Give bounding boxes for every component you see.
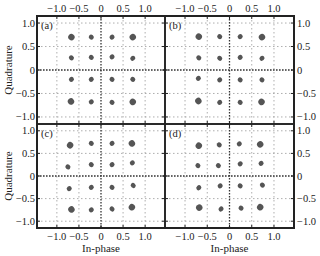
constellation-point (130, 182, 137, 189)
constellation-point (218, 205, 225, 212)
x-tick-label-bottom: −1.0 (47, 231, 66, 242)
constellation-point (88, 161, 95, 168)
constellation-point (237, 182, 244, 189)
constellation-point (129, 159, 136, 166)
y-tick-label-right: −1.0 (297, 216, 316, 227)
panel-a: (a) (37, 16, 165, 124)
constellation-point (88, 34, 95, 41)
panel-label: (c) (41, 128, 53, 140)
constellation-point (216, 33, 223, 40)
constellation-point (88, 206, 95, 213)
constellation-point (238, 205, 245, 212)
y-tick-label-left: 0.5 (22, 148, 35, 159)
constellation-point (109, 140, 116, 147)
y-tick-label-left: 1.0 (22, 125, 35, 136)
panel-label: (d) (169, 128, 182, 140)
constellation-point (109, 184, 116, 191)
x-tick-label-bottom: 0 (227, 231, 232, 242)
y-tick-label-right: 1.0 (297, 125, 310, 136)
constellation-point (195, 203, 204, 212)
constellation-point (128, 97, 137, 106)
y-tick-label-right: −1.0 (297, 111, 316, 122)
constellation-point (194, 32, 203, 41)
y-tick-label-left: −0.5 (16, 88, 35, 99)
constellation-point (237, 33, 244, 40)
constellation-point (217, 182, 224, 189)
x-tick-label-top: −0.5 (198, 3, 217, 14)
x-tick-label-top: 1.0 (139, 3, 152, 14)
y-tick-label-left: 0 (30, 171, 35, 182)
y-tick-label-right: 0.5 (297, 41, 310, 52)
y-tick-label-left: −1.0 (16, 111, 35, 122)
constellation-point (215, 162, 222, 169)
constellation-point (68, 76, 75, 83)
x-tick-label-top: −0.5 (69, 3, 88, 14)
x-tick-label-bottom: 0.5 (245, 231, 258, 242)
y-tick-label-left: −1.0 (16, 216, 35, 227)
y-axis-label-top: Quadrature (2, 45, 14, 95)
panel-c: (c) (37, 124, 165, 228)
constellation-point (128, 33, 137, 42)
constellation-point (216, 141, 223, 148)
x-tick-label-top: 0.5 (245, 3, 258, 14)
y-tick-label-right: 0 (297, 65, 302, 76)
y-axis-label-bottom: Quadrature (2, 151, 14, 201)
panel-label: (a) (41, 20, 53, 32)
y-tick-label-right: −0.5 (297, 193, 316, 204)
constellation-point (88, 54, 95, 61)
constellation-point (109, 99, 116, 106)
constellation-point (195, 54, 202, 61)
constellation-point (67, 33, 76, 42)
y-tick-label-right: 0.5 (297, 148, 310, 159)
constellation-figure: (a)(b)(c)(d) −1.0−0.500.51.0−1.0−0.500.5… (0, 0, 320, 256)
constellation-point (127, 139, 136, 148)
panel-b: (b) (165, 16, 294, 124)
constellation-point (88, 140, 95, 147)
constellation-point (237, 76, 244, 83)
constellation-point (194, 162, 201, 169)
constellation-point (109, 161, 116, 168)
x-tick-label-top: −1.0 (175, 3, 194, 14)
y-tick-label-left: 1.0 (22, 18, 35, 29)
constellation-point (127, 203, 136, 212)
x-tick-label-top: 0 (98, 3, 103, 14)
y-tick-label-right: −0.5 (297, 88, 316, 99)
constellation-point (257, 97, 266, 106)
y-tick-label-left: 0 (30, 65, 35, 76)
constellation-point (256, 140, 265, 149)
panel-d: (d) (165, 124, 294, 228)
constellation-point (258, 76, 265, 83)
x-tick-label-bottom: −0.5 (198, 231, 217, 242)
constellation-point (194, 141, 203, 150)
x-tick-label-bottom: −1.0 (175, 231, 194, 242)
x-axis-label-right: In-phase (211, 242, 249, 254)
constellation-point (237, 160, 244, 167)
constellation-point (109, 76, 116, 83)
constellation-point (66, 185, 73, 192)
x-tick-label-top: 1.0 (267, 3, 280, 14)
constellation-point (129, 76, 136, 83)
constellation-point (216, 99, 223, 106)
constellation-point (88, 76, 95, 83)
constellation-point (195, 184, 202, 191)
x-tick-label-bottom: 0.5 (117, 231, 130, 242)
constellation-point (237, 54, 244, 61)
constellation-point (256, 203, 265, 212)
constellation-point (66, 141, 75, 150)
constellation-point (236, 140, 243, 147)
constellation-point (195, 75, 202, 82)
y-tick-label-left: −0.5 (16, 193, 35, 204)
constellation-point (259, 182, 266, 189)
x-axis-label-left: In-phase (82, 242, 120, 254)
x-tick-label-bottom: 1.0 (139, 231, 152, 242)
x-tick-label-top: −1.0 (47, 3, 66, 14)
constellation-point (109, 34, 116, 41)
x-tick-label-bottom: −0.5 (69, 231, 88, 242)
constellation-point (88, 184, 95, 191)
constellation-point (258, 55, 265, 62)
constellation-point (216, 55, 223, 62)
panel-label: (b) (169, 20, 182, 32)
constellation-point (216, 76, 223, 83)
constellation-point (237, 99, 244, 106)
y-tick-label-left: 0.5 (22, 41, 35, 52)
